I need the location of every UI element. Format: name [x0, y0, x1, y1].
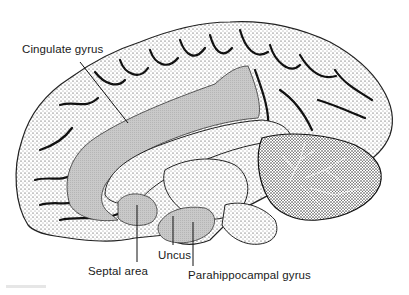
brainstem — [222, 203, 277, 244]
label-septal-area: Septal area — [88, 265, 148, 277]
label-cingulate-gyrus: Cingulate gyrus — [22, 43, 103, 55]
label-parahippocampal-gyrus: Parahippocampal gyrus — [188, 269, 311, 281]
septal-area-region — [118, 194, 157, 226]
caption-fragment — [6, 285, 46, 288]
label-uncus: Uncus — [158, 249, 191, 261]
